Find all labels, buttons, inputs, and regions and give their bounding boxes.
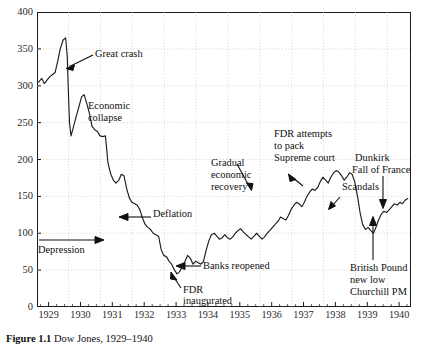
annotation-economic-collapse-line2: collapse [88, 112, 122, 123]
annotation-gradual-recovery-line3: recovery [211, 181, 247, 192]
annotation-fdr-inaugurated-line1: FDR [183, 284, 203, 295]
annotation-british-pound-line2: new low [350, 274, 386, 285]
x-tick-1940: 1940 [379, 310, 419, 320]
y-tick-300: 300 [1, 81, 33, 92]
annotation-economic-collapse-line1: Economic [88, 100, 130, 111]
annotation-great-crash: Great crash [95, 48, 143, 59]
annotation-gradual-recovery-line2: economic [211, 169, 251, 180]
annotation-gradual-recovery-line1: Gradual [211, 157, 244, 168]
annotation-fdr-inaugurated-line2: inaugurated [183, 295, 232, 306]
y-tick-50: 50 [1, 265, 33, 276]
annotation-british-pound-line1: British Pound [350, 262, 407, 273]
y-tick-250: 250 [1, 118, 33, 129]
y-tick-200: 200 [1, 155, 33, 166]
annotation-supreme-court-line2: to pack [274, 140, 304, 151]
annotation-dunkirk-line2: Fall of France [352, 164, 410, 175]
y-tick-400: 400 [1, 7, 33, 18]
y-axis-tick-labels: 400 350 300 250 200 150 100 50 0 [0, 0, 33, 344]
y-tick-150: 150 [1, 191, 33, 202]
annotation-scandals: Scandals [342, 181, 379, 192]
annotation-deflation: Deflation [153, 208, 192, 219]
annotation-depression: Depression [38, 244, 85, 255]
figure-caption-number: Figure 1.1 [6, 333, 51, 344]
figure-caption: Figure 1.1 Dow Jones, 1929–1940 [6, 333, 416, 344]
y-tick-350: 350 [1, 44, 33, 55]
annotation-supreme-court-line1: FDR attempts [274, 128, 332, 139]
y-tick-100: 100 [1, 228, 33, 239]
annotation-supreme-court-line3: Supreme court [274, 152, 335, 163]
annotation-dunkirk-line1: Dunkirk [355, 152, 390, 163]
figure-caption-text: Dow Jones, 1929–1940 [54, 333, 153, 344]
annotation-british-pound-line3: Churchill PM [350, 286, 407, 297]
annotation-banks-reopened: Banks reopened [203, 260, 270, 271]
figure-stock-index-1929-1940: 400 350 300 250 200 150 100 50 0 1929 19… [0, 0, 423, 344]
